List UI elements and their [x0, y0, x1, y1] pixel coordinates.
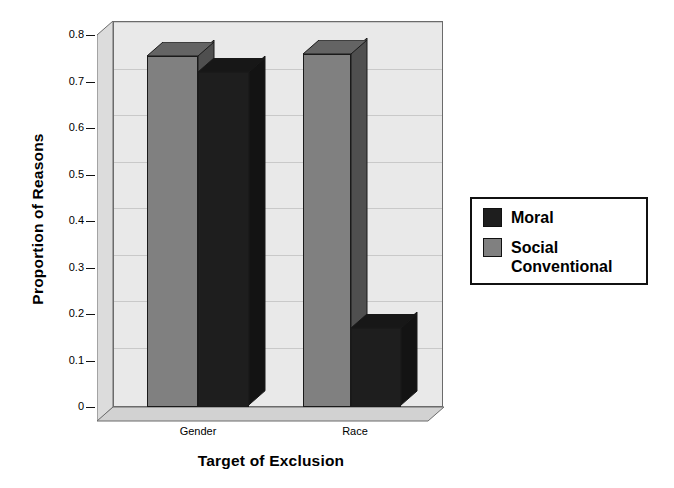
y-tick-label: 0.6	[40, 122, 84, 133]
y-tick-label: 0.4	[40, 215, 84, 226]
bar-gender-social-conventional	[147, 42, 198, 407]
y-tick-mark	[86, 82, 95, 83]
y-tick-label: 0	[40, 401, 84, 412]
y-tick-label: 0.1	[40, 355, 84, 366]
y-tick-label: 0.7	[40, 76, 84, 87]
bar-side-face	[249, 56, 267, 407]
y-tick-mark	[86, 314, 95, 315]
gridline	[114, 22, 442, 23]
bar-race-moral	[351, 314, 401, 407]
y-tick-label: 0.8	[40, 29, 84, 40]
legend-swatch-icon	[483, 238, 502, 257]
legend-item-social[interactable]: Social Conventional	[483, 238, 612, 276]
bar-gender-moral	[198, 58, 249, 407]
bar-front-face	[351, 328, 401, 407]
bar-front-face	[303, 54, 351, 407]
legend: MoralSocial Conventional	[470, 197, 648, 285]
bar-front-face	[198, 72, 249, 407]
bar-race-social-conventional	[303, 40, 351, 407]
legend-label: Moral	[511, 208, 554, 227]
y-tick-mark	[86, 175, 95, 176]
y-tick-mark	[86, 128, 95, 129]
x-axis-title: Target of Exclusion	[96, 452, 446, 470]
bar-front-face	[147, 56, 198, 407]
y-tick-mark	[86, 361, 95, 362]
y-tick-mark	[86, 268, 95, 269]
legend-label: Social Conventional	[511, 238, 612, 276]
x-category-label-race: Race	[295, 425, 415, 437]
bar-chart: Proportion of Reasons 0.80.70.60.50.40.3…	[0, 0, 674, 488]
legend-swatch-icon	[483, 208, 502, 227]
y-tick-label: 0.3	[40, 262, 84, 273]
y-tick-mark	[86, 221, 95, 222]
x-category-label-gender: Gender	[138, 425, 258, 437]
y-tick-mark	[86, 407, 95, 408]
y-tick-label: 0.2	[40, 308, 84, 319]
y-tick-mark	[86, 35, 95, 36]
legend-item-moral[interactable]: Moral	[483, 208, 554, 227]
y-tick-label: 0.5	[40, 169, 84, 180]
